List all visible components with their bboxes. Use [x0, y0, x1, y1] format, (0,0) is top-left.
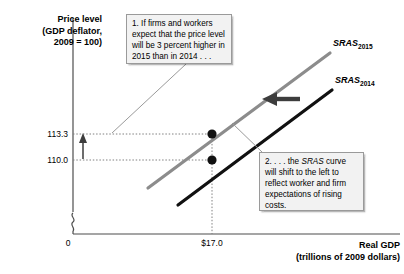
equilibrium-point-2014: [207, 155, 216, 164]
sras-shift-diagram: Price level (GDP deflator, 2009 = 100) R…: [0, 0, 404, 274]
callout-box-1: 1. If firms and workers expect that the …: [126, 14, 232, 64]
x-axis-title: Real GDP (trillions of 2009 dollars): [244, 240, 400, 263]
curve-label-sras-2015-base: SRAS: [333, 38, 358, 48]
y-axis-break-icon: [72, 213, 74, 231]
callout-1-connector: [112, 64, 186, 133]
x-tick-label-17: $17.0: [190, 238, 234, 248]
price-rise-arrow-icon: [79, 133, 87, 159]
y-tick-label-110-0: 110.0: [28, 155, 68, 165]
curve-label-sras-2014-year: 2014: [360, 80, 375, 87]
equilibrium-point-2015: [207, 129, 216, 138]
curve-label-sras-2015: SRAS2015: [333, 38, 373, 50]
y-tick-label-113-3: 113.3: [28, 129, 68, 139]
shift-left-arrow-icon: [262, 92, 300, 106]
curve-label-sras-2014-base: SRAS: [335, 75, 360, 85]
curve-label-sras-2015-year: 2015: [358, 43, 373, 50]
origin-label: 0: [56, 238, 80, 248]
curve-label-sras-2014: SRAS2014: [335, 75, 375, 87]
callout-2-connector: [232, 123, 262, 152]
y-axis-title: Price level (GDP deflator, 2009 = 100): [6, 14, 102, 49]
callout-box-2: 2. . . . the SRAS curve will shift to th…: [259, 152, 364, 211]
